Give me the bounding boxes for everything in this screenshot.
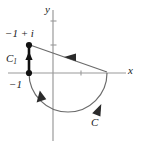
label-c1-subscript: 1 xyxy=(13,57,17,66)
label-c: C xyxy=(91,117,98,128)
label-x-axis: x xyxy=(128,65,133,76)
arc-arrowhead-start-icon xyxy=(37,90,47,102)
label-minus-one-plus-i: −1 + i xyxy=(5,28,34,39)
complex-plane-figure: −1 + i C1 −1 C x y xyxy=(0,0,142,147)
segment-c1-path xyxy=(25,42,32,76)
arc-arrowhead-end-icon xyxy=(92,104,101,117)
line-arrowhead-icon xyxy=(64,54,76,62)
point-minus-one xyxy=(26,70,32,76)
c1-arrowhead-icon xyxy=(25,52,32,61)
label-c1: C1 xyxy=(6,53,17,65)
point-minus-one-plus-i xyxy=(26,42,32,48)
arc-path-c xyxy=(29,73,107,117)
straight-line-path xyxy=(30,45,107,72)
label-minus-one: −1 xyxy=(9,79,22,90)
figure-canvas xyxy=(0,0,142,147)
label-y-axis: y xyxy=(45,4,50,15)
